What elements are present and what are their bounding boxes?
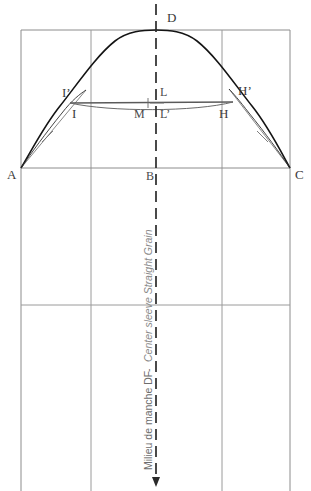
helper-line-a-to-iprime [21, 90, 86, 168]
point-label-B: B [146, 169, 154, 183]
helper-line-c-to-hprime [229, 89, 290, 168]
point-label-C: C [295, 167, 304, 182]
grain-axis-arrow-icon [152, 477, 160, 487]
point-label-H-prime: H’ [238, 83, 252, 98]
grain-line-annotation: Milieu de manche DF - Center sleeve Stra… [142, 229, 154, 470]
point-label-H: H [219, 106, 228, 121]
point-label-A: A [7, 167, 17, 182]
point-label-M: M [134, 107, 145, 121]
point-label-D: D [167, 10, 176, 25]
diagram-canvas: A B C D I I’ H H’ L L’ M Milieu de manch… [0, 0, 311, 491]
point-label-L-prime: L’ [160, 107, 170, 121]
point-label-I: I [72, 106, 76, 121]
grain-line-text-en: Center sleeve Straight Grain [142, 229, 154, 362]
point-label-I-prime: I’ [62, 85, 71, 100]
point-label-L: L [160, 85, 167, 99]
grain-line-text-separator: - [142, 368, 154, 372]
grain-line-text-fr: Milieu de manche DF [142, 371, 154, 470]
sleeve-cap-diagram: A B C D I I’ H H’ L L’ M Milieu de manch… [0, 0, 311, 491]
